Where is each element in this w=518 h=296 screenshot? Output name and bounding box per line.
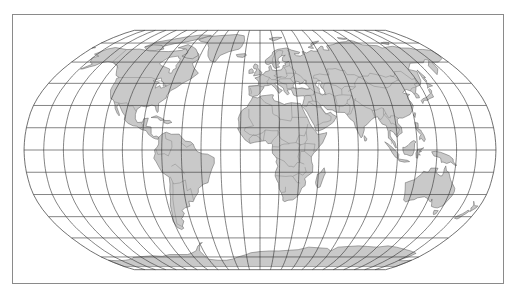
landmass-borneo bbox=[403, 141, 416, 156]
landmass-ireland bbox=[249, 69, 253, 74]
landmass-new-zealand-south bbox=[454, 210, 469, 219]
landmass-north-america bbox=[80, 47, 198, 140]
landmass-svalbard bbox=[269, 37, 282, 41]
landmass-java bbox=[398, 159, 409, 162]
landmass-madagascar bbox=[316, 168, 326, 188]
landmass-hispaniola bbox=[164, 120, 172, 123]
landmass-new-siberian-islands bbox=[381, 42, 389, 45]
landmass-tasmania bbox=[433, 210, 438, 214]
landmass-greenland bbox=[199, 35, 245, 63]
world-map bbox=[0, 0, 518, 296]
land-layer bbox=[80, 35, 477, 267]
landmass-antarctica bbox=[109, 243, 417, 267]
landmass-novaya-zemlya bbox=[308, 41, 319, 48]
landmass-sri-lanka bbox=[364, 136, 367, 141]
landmass-cuba bbox=[151, 116, 164, 121]
landmass-great-britain bbox=[253, 64, 262, 76]
landmass-new-guinea bbox=[432, 151, 457, 165]
graticule-layer bbox=[24, 30, 496, 269]
